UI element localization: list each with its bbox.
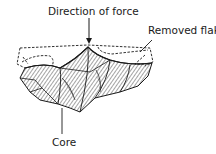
force-arrow-icon	[86, 18, 92, 44]
flint-knapping-diagram	[0, 0, 216, 154]
core-body	[20, 47, 152, 112]
